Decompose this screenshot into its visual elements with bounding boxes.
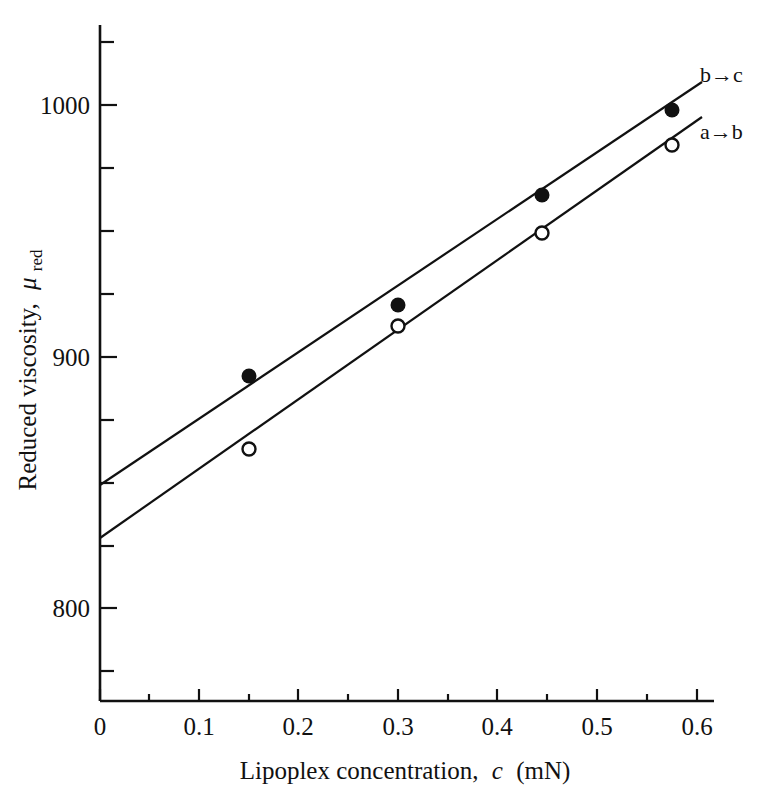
x-tick-label-0.2: 0.2 bbox=[282, 713, 313, 740]
data-point-filled bbox=[242, 369, 257, 384]
x-tick-label-0.1: 0.1 bbox=[183, 713, 214, 740]
x-tick-label-0.5: 0.5 bbox=[581, 713, 612, 740]
data-point-open bbox=[392, 320, 405, 333]
y-tick-label-900: 900 bbox=[53, 344, 91, 371]
y-axis-title-main: Reduced viscosity, bbox=[14, 303, 41, 490]
data-point-open bbox=[536, 227, 549, 240]
data-point-filled bbox=[391, 298, 406, 313]
axis-lines bbox=[100, 25, 714, 701]
x-tick-label-0.4: 0.4 bbox=[481, 713, 513, 740]
y-tick-labels: 1000 900 800 bbox=[40, 92, 90, 622]
curve-label-b-to-c: b→c bbox=[700, 62, 743, 87]
x-tick-labels: 0 0.1 0.2 0.3 0.4 0.5 0.6 bbox=[94, 713, 713, 740]
x-axis-title-unit: (mN) bbox=[516, 757, 570, 785]
x-axis-title-main: Lipoplex concentration, bbox=[240, 757, 479, 784]
data-point-open bbox=[666, 139, 679, 152]
y-tick-label-800: 800 bbox=[53, 595, 91, 622]
y-axis-ticks bbox=[100, 42, 117, 671]
x-axis-title: Lipoplex concentration, c (mN) bbox=[240, 757, 571, 785]
scatter-plot: 1000 900 800 0 0.1 0.2 0.3 0.4 0.5 0.6 L… bbox=[0, 0, 761, 795]
data-point-filled bbox=[535, 188, 550, 203]
y-axis-title: Reduced viscosity, μ red bbox=[14, 249, 46, 491]
figure-container: 1000 900 800 0 0.1 0.2 0.3 0.4 0.5 0.6 L… bbox=[0, 0, 761, 795]
y-tick-label-1000: 1000 bbox=[40, 92, 90, 119]
x-axis-title-symbol: c bbox=[492, 757, 503, 784]
data-point-open bbox=[243, 443, 256, 456]
x-tick-label-0.6: 0.6 bbox=[681, 713, 712, 740]
fit-line-b-to-c bbox=[100, 82, 702, 485]
x-tick-label-0.3: 0.3 bbox=[382, 713, 413, 740]
curve-labels: b→c a→b bbox=[700, 62, 743, 144]
x-tick-label-0: 0 bbox=[94, 713, 107, 740]
y-axis-title-subscript: red bbox=[27, 249, 46, 271]
y-axis-title-symbol: μ bbox=[14, 277, 41, 291]
x-axis-ticks bbox=[100, 689, 697, 701]
series-a-to-b-markers bbox=[243, 139, 679, 456]
curve-label-a-to-b: a→b bbox=[700, 119, 743, 144]
data-point-filled bbox=[665, 103, 680, 118]
